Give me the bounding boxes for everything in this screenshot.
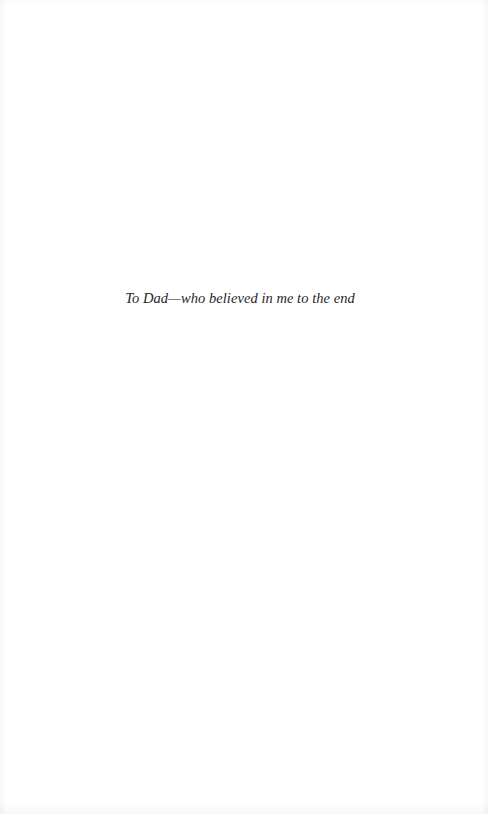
dedication-text: To Dad—who believed in me to the end [0, 289, 480, 307]
scan-edge-top [0, 0, 488, 6]
book-page: To Dad—who believed in me to the end [0, 0, 488, 814]
scan-edge-right [482, 0, 488, 814]
scan-edge-left [0, 0, 6, 814]
scan-edge-bottom [0, 802, 488, 814]
